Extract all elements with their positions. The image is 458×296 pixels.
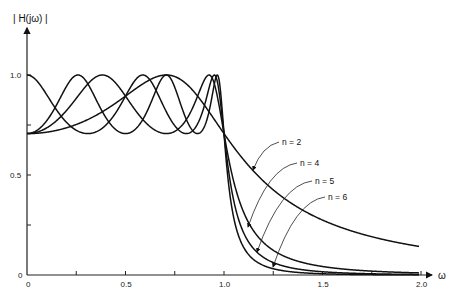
y-tick-label: 0 — [18, 271, 23, 280]
curve-label-n5: n = 5 — [315, 176, 334, 186]
curve-label-n2: n = 2 — [282, 137, 301, 147]
curve-n2 — [27, 75, 419, 246]
axes: 00.51.01.52.000.51.0 — [10, 28, 432, 289]
curve-labels: n = 2n = 4n = 5n = 6 — [248, 137, 347, 267]
curve-label-n6: n = 6 — [328, 192, 347, 202]
x-tick-label: 1.0 — [219, 280, 231, 289]
x-tick-label: 1.5 — [318, 280, 330, 289]
chebyshev-response-chart: 00.51.01.52.000.51.0 n = 2n = 4n = 5n = … — [0, 0, 458, 296]
y-tick-label: 1.0 — [10, 71, 22, 80]
curve-label-n4: n = 4 — [300, 158, 319, 168]
curve-n5 — [27, 75, 419, 274]
x-tick-label: 0 — [26, 280, 31, 289]
x-axis-title: ω — [438, 270, 446, 281]
curve-n6 — [27, 75, 419, 275]
label-arrow — [257, 181, 312, 252]
y-tick-label: 0.5 — [10, 171, 22, 180]
x-tick-label: 0.5 — [121, 280, 133, 289]
curve-n4 — [27, 75, 419, 273]
curves — [27, 75, 419, 275]
label-arrow — [253, 142, 279, 170]
y-axis-title: | H(jω) | — [13, 13, 48, 24]
x-tick-label: 2.0 — [416, 280, 428, 289]
